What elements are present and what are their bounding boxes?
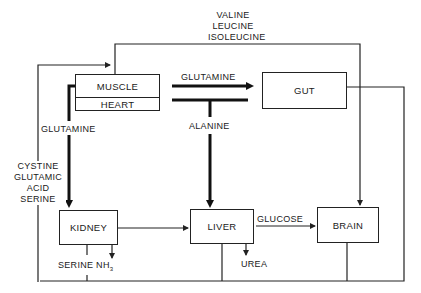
urea-label: UREA	[241, 259, 267, 270]
brain-box: BRAIN	[317, 207, 379, 243]
glutamine-kidney-label: GLUTAMINE	[41, 124, 96, 135]
bcaa-label: VALINE LEUCINE ISOLEUCINE	[208, 10, 258, 43]
heart-label: HEART	[101, 99, 135, 110]
brain-label: BRAIN	[333, 220, 364, 231]
glucose-label: GLUCOSE	[257, 214, 303, 225]
glutamine-gut-label: GLUTAMINE	[181, 72, 236, 83]
gut-box: GUT	[262, 72, 347, 109]
cystine-group-label: CYSTINE GLUTAMIC ACID SERINE	[10, 161, 66, 205]
liver-label: LIVER	[208, 221, 237, 232]
kidney-label: KIDNEY	[70, 222, 107, 233]
gut-label: GUT	[294, 85, 315, 96]
liver-box: LIVER	[190, 209, 254, 244]
serine-nh3-label: SERINE NH3	[58, 260, 113, 275]
muscle-label: MUSCLE	[97, 81, 138, 92]
heart-box: HEART	[75, 97, 160, 111]
connector-lines	[0, 0, 421, 293]
alanine-label: ALANINE	[189, 121, 230, 132]
kidney-box: KIDNEY	[59, 210, 118, 245]
muscle-box: MUSCLE	[75, 74, 160, 98]
